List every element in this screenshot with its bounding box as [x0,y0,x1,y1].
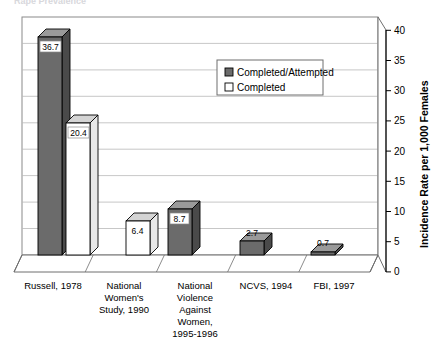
bar-label-8-7: 8.7 [170,213,189,224]
y-axis-title: Incidence Rate per 1,000 Females [418,80,430,248]
x-label-national-womens-study: National Women's Study, 1990 [99,280,149,315]
x-label-fbi: FBI, 1997 [313,280,354,291]
bar-nvaw-completed-attempted[interactable] [168,201,200,255]
x-axis-labels: Russell, 1978 National Women's Study, 19… [24,280,354,339]
svg-text:25: 25 [394,115,406,126]
svg-text:8.7: 8.7 [174,214,186,224]
y-axis [378,17,386,272]
svg-text:20.4: 20.4 [70,128,87,138]
legend-label-completed: Completed [237,82,285,93]
svg-text:40: 40 [394,25,406,36]
svg-text:National: National [178,280,213,291]
y-axis-tick-labels: 40 35 30 25 20 15 10 5 0 [394,25,406,277]
chart-svg: 36.7 20.4 6.4 8.7 [0,0,436,354]
bar-label-20-4: 20.4 [68,127,89,138]
x-label-ncvs: NCVS, 1994 [240,280,293,291]
svg-text:15: 15 [394,176,406,187]
svg-text:Violence: Violence [177,292,213,303]
x-label-nvaw: National Violence Against Women, 1995-19… [172,280,217,339]
legend-swatch-completed-attempted [225,68,233,76]
svg-text:Women,: Women, [177,316,212,327]
plot-floor [14,255,378,272]
svg-text:Russell, 1978: Russell, 1978 [24,280,82,291]
legend-label-completed-attempted: Completed/Attempted [237,67,334,78]
bar-label-2-7: 2.7 [246,228,258,238]
svg-text:36.7: 36.7 [42,42,59,52]
svg-text:Study, 1990: Study, 1990 [99,304,149,315]
svg-text:10: 10 [394,206,406,217]
svg-text:20: 20 [394,146,406,157]
bar-label-0-7: 0.7 [317,238,329,248]
svg-text:Women's: Women's [104,292,143,303]
svg-text:30: 30 [394,85,406,96]
x-label-russell: Russell, 1978 [24,280,82,291]
svg-text:FBI, 1997: FBI, 1997 [313,280,354,291]
y-axis-ticks [386,30,391,272]
legend-swatch-completed [225,83,233,91]
bar-label-36-7: 36.7 [40,41,61,52]
bar-label-6-4: 6.4 [128,225,147,236]
svg-text:5: 5 [394,236,400,247]
svg-text:1995-1996: 1995-1996 [172,328,217,339]
legend-item-completed-attempted[interactable]: Completed/Attempted [225,67,334,78]
svg-text:6.4: 6.4 [132,226,144,236]
svg-text:35: 35 [394,55,406,66]
svg-text:0: 0 [394,266,400,277]
bar-russell-completed-attempted[interactable] [38,29,70,255]
chart-container: Rape Prevalence [0,0,436,354]
svg-text:Against: Against [179,304,211,315]
svg-text:NCVS, 1994: NCVS, 1994 [240,280,293,291]
svg-text:National: National [107,280,142,291]
chart-legend: Completed/Attempted Completed [217,60,334,95]
